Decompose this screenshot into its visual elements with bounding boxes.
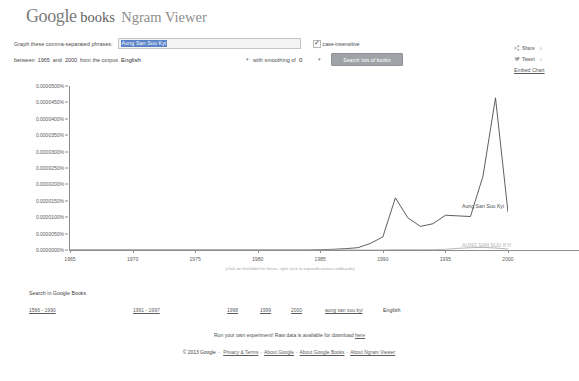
year-start-input[interactable]: 1965 — [38, 57, 50, 63]
embed-chart-link[interactable]: Embed Chart — [514, 67, 545, 73]
site-logo[interactable]: Google books Ngram Viewer — [26, 6, 207, 27]
x-tick-label: 1975 — [189, 256, 200, 262]
share-button[interactable]: Share 0 — [514, 44, 572, 52]
chart-note: (click on line/label for focus, right cl… — [14, 266, 566, 271]
tweet-button[interactable]: Tweet 0 — [514, 55, 572, 63]
x-tick-label: 1980 — [252, 256, 263, 262]
y-tick-label: 0.0000200% — [36, 181, 64, 187]
experiment-text: Run your own experiment! Raw data is ava… — [214, 332, 355, 338]
experiment-footer: Run your own experiment! Raw data is ava… — [0, 332, 579, 338]
query-form: Graph these comma-separated phrases: Aun… — [14, 38, 514, 65]
phrases-label: Graph these comma-separated phrases: — [14, 41, 113, 47]
google-books-range-link[interactable]: 1999 — [260, 307, 271, 313]
x-tick-label: 1990 — [377, 256, 388, 262]
y-tick-mark — [65, 135, 68, 136]
x-tick-mark — [133, 250, 134, 253]
footer-legal-link[interactable]: Privacy & Terms — [223, 350, 258, 355]
phrases-row: Graph these comma-separated phrases: Aun… — [14, 38, 514, 49]
y-tick-label: 0.0000500% — [36, 83, 64, 89]
x-tick-label: 1985 — [315, 256, 326, 262]
chevron-down-icon: ▾ — [246, 57, 249, 62]
y-tick-mark — [65, 151, 68, 152]
x-tick-label: 2000 — [502, 256, 513, 262]
y-axis-labels: 0.0000500%0.0000450%0.0000400%0.0000350%… — [14, 86, 68, 250]
phrases-input[interactable]: Aung San Suu Kyi — [118, 38, 301, 49]
twitter-bird-icon — [514, 56, 520, 62]
x-tick-label: 1970 — [127, 256, 138, 262]
x-tick-mark — [320, 250, 321, 253]
tweet-count: 0 — [540, 57, 542, 62]
range-row: between 1965 and 2000 from the corpus En… — [14, 54, 514, 65]
x-tick-mark — [70, 250, 71, 253]
y-tick-label: 0.0000350% — [36, 132, 64, 138]
y-tick-label: 0.0000300% — [36, 149, 64, 155]
legal-footer: © 2013 Google - Privacy & Terms-About Go… — [0, 350, 579, 355]
ngram-chart[interactable]: 0.0000500%0.0000450%0.0000400%0.0000350%… — [14, 86, 566, 276]
share-column: Share 0 Tweet 0 Embed Chart — [514, 44, 572, 73]
y-tick-label: 0.0000150% — [36, 198, 64, 204]
google-books-range-link[interactable]: 2000 — [291, 307, 302, 313]
y-tick-mark — [65, 118, 68, 119]
google-books-range-link[interactable]: aung san suu kyi — [325, 307, 363, 313]
share-count: 0 — [540, 46, 542, 51]
footer-separator: - — [296, 350, 298, 355]
y-tick-label: 0.0000100% — [36, 214, 64, 220]
y-tick-mark — [65, 86, 68, 87]
copyright-text: © 2013 Google — [183, 350, 216, 355]
footer-legal-link[interactable]: About Google — [264, 350, 294, 355]
y-tick-mark — [65, 233, 68, 234]
google-books-links: aung san suu kyi2000199919981991 - 19971… — [29, 307, 549, 317]
search-in-google-books-section: Search in Google Books aung san suu kyi2… — [29, 290, 549, 317]
checkbox-box: ✓ — [313, 40, 321, 48]
search-in-google-books-title: Search in Google Books — [29, 290, 549, 296]
footer-separator: - — [260, 350, 262, 355]
case-insensitive-checkbox[interactable]: ✓ case-insensitive — [313, 40, 360, 48]
y-tick-label: 0.0000250% — [36, 165, 64, 171]
google-books-range-link[interactable]: 1998 — [227, 307, 238, 313]
y-tick-mark — [65, 250, 68, 251]
series-label-aung-san-suu-kyi[interactable]: Aung San Suu Kyi — [462, 203, 504, 209]
year-end-input[interactable]: 2000 — [65, 57, 77, 63]
and-label: and — [53, 57, 62, 63]
y-tick-label: 0.0000400% — [36, 116, 64, 122]
series-line-aung-san-suu-kyi[interactable] — [70, 98, 508, 250]
google-books-range-link[interactable]: 1566 - 1990 — [29, 307, 56, 313]
x-tick-mark — [195, 250, 196, 253]
y-tick-label: 0.0000050% — [36, 231, 64, 237]
footer-separator: - — [218, 350, 220, 355]
share-icon — [514, 45, 520, 51]
corpus-select-value: English — [121, 57, 141, 63]
y-tick-mark — [65, 102, 68, 103]
smoothing-select[interactable]: 0 ▾ — [299, 57, 321, 63]
chart-plot-area[interactable] — [70, 86, 508, 250]
x-tick-mark — [383, 250, 384, 253]
y-tick-label: 0.0000450% — [36, 99, 64, 105]
x-axis-line — [69, 250, 579, 251]
download-here-link[interactable]: here — [355, 332, 365, 338]
logo-books: books — [80, 9, 115, 25]
x-axis-labels: 19651970197519801985199019952000 — [14, 252, 566, 264]
phrases-input-value: Aung San Suu Kyi — [121, 40, 168, 47]
footer-separator: - — [346, 350, 348, 355]
x-tick-mark — [258, 250, 259, 253]
share-label: Share — [522, 46, 535, 51]
chevron-down-icon: ▾ — [318, 57, 321, 62]
google-books-corpus-language: English — [383, 307, 400, 313]
logo-google: Google — [26, 6, 77, 26]
series-line-aung-san-suu-kyi-upper[interactable] — [70, 247, 508, 250]
corpus-select[interactable]: English ▾ — [121, 57, 249, 63]
check-icon: ✓ — [314, 39, 320, 47]
series-label-aung-san-suu-kyi-upper[interactable]: AUNG SAN SUU KYI — [462, 242, 511, 248]
y-tick-mark — [65, 184, 68, 185]
google-books-range-link[interactable]: 1991 - 1997 — [133, 307, 160, 313]
smoothing-label: with smoothing of — [253, 57, 296, 63]
smoothing-select-value: 0 — [299, 57, 302, 63]
logo-ngram-viewer: Ngram Viewer — [121, 9, 206, 25]
footer-legal-link[interactable]: About Google Books — [300, 350, 345, 355]
y-tick-mark — [65, 200, 68, 201]
corpus-label: from the corpus — [80, 57, 118, 63]
x-tick-label: 1995 — [440, 256, 451, 262]
y-tick-mark — [65, 217, 68, 218]
footer-legal-link[interactable]: About Ngram Viewer — [350, 350, 395, 355]
search-button[interactable]: Search lots of books — [331, 53, 403, 66]
